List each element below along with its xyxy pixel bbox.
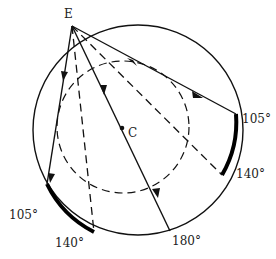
arrow-icon: [100, 85, 107, 95]
arrow-icon: [61, 71, 68, 81]
arrow-icon: [48, 173, 55, 183]
ray-to-right-105: [72, 26, 236, 114]
ray-to-left-105: [47, 26, 72, 184]
outer-circle: [33, 25, 243, 235]
label-left-140: 140°: [55, 236, 84, 250]
dashed-to-left-140: [72, 26, 94, 232]
label-C: C: [128, 126, 137, 140]
point-C-dot: [120, 126, 125, 131]
arrow-icon: [127, 58, 137, 66]
label-right-105: 105°: [242, 112, 271, 126]
ray-diagram: E C 105° 140° 180° 105° 140°: [0, 0, 276, 259]
left-arc-105-140: [47, 184, 94, 232]
dashed-to-right-140: [72, 26, 222, 175]
label-bottom-180: 180°: [172, 234, 201, 248]
right-arc-105-140: [222, 114, 236, 175]
arrow-icon: [192, 91, 203, 98]
label-right-140: 140°: [236, 167, 265, 181]
label-E: E: [64, 7, 73, 21]
label-left-105: 105°: [9, 208, 38, 222]
